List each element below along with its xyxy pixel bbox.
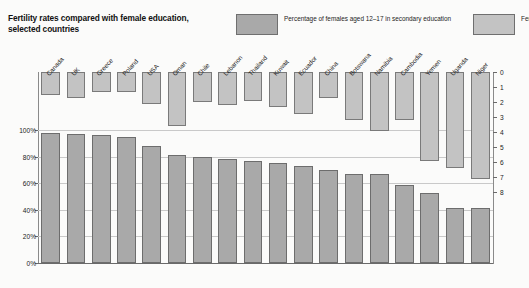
bar-fertility[interactable] — [420, 72, 439, 161]
y-axis-left-label: 60% — [23, 180, 36, 187]
tick-right — [493, 162, 497, 163]
y-axis-right-label: 2 — [500, 99, 504, 106]
bar-education[interactable] — [117, 137, 136, 263]
tick-right — [493, 72, 497, 73]
chart-legend: Percentage of females aged 12–17 in seco… — [236, 14, 529, 35]
bar-fertility[interactable] — [193, 72, 212, 102]
tick-right — [493, 87, 497, 88]
y-axis-right-label: 8 — [500, 189, 504, 196]
y-axis-right-label: 7 — [500, 174, 504, 181]
y-axis-left-label: 80% — [23, 153, 36, 160]
legend-swatch-education — [236, 14, 278, 35]
y-axis-left — [38, 72, 39, 264]
plot-area: 100%80%60%40%20%0%012345678 — [38, 72, 493, 264]
y-axis-left-label: 0% — [26, 260, 36, 267]
tick-right — [493, 117, 497, 118]
bar-education[interactable] — [269, 163, 288, 263]
legend-label-education: Percentage of females aged 12–17 in seco… — [284, 14, 451, 23]
bar-education[interactable] — [294, 166, 313, 263]
bar-education[interactable] — [420, 193, 439, 263]
bar-fertility[interactable] — [142, 72, 161, 104]
tick-right — [493, 147, 497, 148]
y-axis-left-label: 40% — [23, 206, 36, 213]
bar-fertility[interactable] — [294, 72, 313, 114]
chart-page: Fertility rates compared with female edu… — [0, 0, 529, 288]
y-axis-left-label: 20% — [23, 233, 36, 240]
bar-education[interactable] — [446, 208, 465, 263]
bar-education[interactable] — [67, 134, 86, 263]
y-axis-left-label: 100% — [19, 127, 36, 134]
bar-education[interactable] — [92, 135, 111, 263]
bar-education[interactable] — [319, 170, 338, 263]
bar-fertility[interactable] — [471, 72, 490, 179]
bar-fertility[interactable] — [370, 72, 389, 131]
bar-fertility[interactable] — [244, 72, 263, 101]
y-axis-right-label: 1 — [500, 84, 504, 91]
tick-right — [493, 132, 497, 133]
page-title: Fertility rates compared with female edu… — [8, 13, 223, 35]
category-labels: CanadaUKGreecePolandUSAOmanChileLebanonT… — [38, 72, 493, 73]
bar-education[interactable] — [244, 161, 263, 263]
y-axis-right-label: 6 — [500, 159, 504, 166]
bar-fertility[interactable] — [218, 72, 237, 105]
bar-education[interactable] — [168, 155, 187, 263]
bar-fertility[interactable] — [395, 72, 414, 120]
bar-education[interactable] — [370, 174, 389, 263]
bar-fertility[interactable] — [269, 72, 288, 107]
y-axis-right-label: 3 — [500, 114, 504, 121]
legend-label-fertility: Fertility rate: average number of childr… — [521, 14, 529, 23]
legend-swatch-fertility — [473, 14, 515, 35]
y-axis-right-label: 0 — [500, 69, 504, 76]
bar-education[interactable] — [142, 146, 161, 263]
bar-education[interactable] — [193, 157, 212, 263]
bar-education[interactable] — [41, 133, 60, 263]
bar-education[interactable] — [345, 174, 364, 263]
gridline-percent — [38, 263, 493, 264]
legend-item-fertility: Fertility rate: average number of childr… — [473, 14, 529, 35]
tick-right — [493, 102, 497, 103]
bar-fertility[interactable] — [168, 72, 187, 126]
y-axis-right-label: 5 — [500, 144, 504, 151]
bar-education[interactable] — [471, 208, 490, 263]
tick-right — [493, 192, 497, 193]
tick-right — [493, 177, 497, 178]
bar-fertility[interactable] — [446, 72, 465, 168]
legend-item-education: Percentage of females aged 12–17 in seco… — [236, 14, 451, 35]
y-axis-right-label: 4 — [500, 129, 504, 136]
y-axis-right — [493, 72, 494, 264]
bar-education[interactable] — [218, 159, 237, 263]
bar-fertility[interactable] — [345, 72, 364, 120]
bar-education[interactable] — [395, 185, 414, 263]
